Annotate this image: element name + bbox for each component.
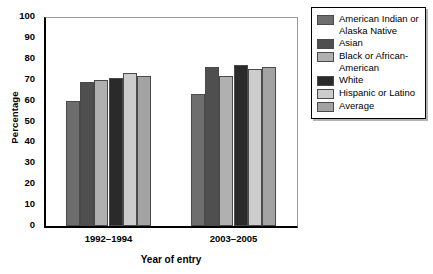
legend-item: American Indian or Alaska Native bbox=[317, 13, 421, 36]
bar-chart: Percentage 0102030405060708090100 1992–1… bbox=[0, 0, 433, 274]
y-axis-title: Percentage bbox=[9, 68, 20, 168]
legend-label: White bbox=[339, 74, 363, 86]
legend-swatch-icon bbox=[317, 39, 334, 49]
y-tick-label: 30 bbox=[24, 156, 35, 167]
bar bbox=[94, 80, 108, 226]
legend-item: Average bbox=[317, 100, 421, 112]
bar bbox=[219, 76, 233, 226]
bar bbox=[137, 76, 151, 226]
legend-label: Asian bbox=[339, 37, 363, 49]
x-group-label: 1992–1994 bbox=[49, 233, 169, 244]
y-tick-label: 100 bbox=[19, 10, 35, 21]
x-group-label: 2003–2005 bbox=[174, 233, 294, 244]
legend-item: Asian bbox=[317, 37, 421, 49]
legend: American Indian or Alaska NativeAsianBla… bbox=[311, 7, 426, 119]
legend-label: Average bbox=[339, 100, 374, 112]
y-tick-label: 60 bbox=[24, 94, 35, 105]
legend-item: Black or African-American bbox=[317, 50, 421, 73]
legend-label: Hispanic or Latino bbox=[339, 87, 415, 99]
y-tick-label: 50 bbox=[24, 115, 35, 126]
legend-item: White bbox=[317, 74, 421, 86]
bar bbox=[80, 82, 94, 226]
y-tick-label: 20 bbox=[24, 177, 35, 188]
bar bbox=[205, 67, 219, 226]
legend-label: American Indian or Alaska Native bbox=[339, 13, 421, 36]
x-axis-title: Year of entry bbox=[44, 254, 298, 265]
bar bbox=[191, 94, 205, 226]
bar bbox=[123, 73, 137, 226]
y-tick-label: 70 bbox=[24, 73, 35, 84]
legend-swatch-icon bbox=[317, 89, 334, 99]
y-tick-label: 90 bbox=[24, 31, 35, 42]
y-tick-label: 40 bbox=[24, 135, 35, 146]
bar bbox=[66, 101, 80, 226]
legend-swatch-icon bbox=[317, 76, 334, 86]
legend-swatch-icon bbox=[317, 15, 334, 25]
y-tick-label: 0 bbox=[30, 219, 35, 230]
legend-label: Black or African-American bbox=[339, 50, 421, 73]
bar bbox=[234, 65, 248, 226]
legend-swatch-icon bbox=[317, 52, 334, 62]
bars-layer bbox=[46, 17, 296, 226]
y-tick-label: 10 bbox=[24, 198, 35, 209]
legend-item: Hispanic or Latino bbox=[317, 87, 421, 99]
legend-swatch-icon bbox=[317, 102, 334, 112]
bar bbox=[109, 78, 123, 226]
y-tick-label: 80 bbox=[24, 52, 35, 63]
bar bbox=[248, 69, 262, 226]
bar bbox=[262, 67, 276, 226]
